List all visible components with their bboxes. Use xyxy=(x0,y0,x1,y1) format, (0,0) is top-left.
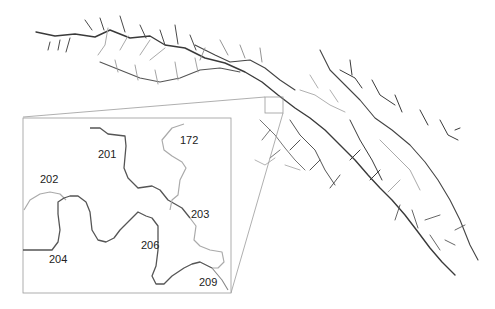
river-network-map xyxy=(0,0,495,309)
reach-label-203: 203 xyxy=(191,209,209,220)
reach-label-209: 209 xyxy=(199,277,217,288)
reach-label-204: 204 xyxy=(49,254,67,265)
inset-connector-bottom xyxy=(231,113,283,293)
inset-frame xyxy=(23,118,231,293)
reach-label-202: 202 xyxy=(40,174,58,185)
zoom-region-box xyxy=(265,97,283,113)
reach-label-201: 201 xyxy=(98,149,116,160)
reach-label-206: 206 xyxy=(141,240,159,251)
inset-connector-top xyxy=(23,97,265,117)
reach-label-172: 172 xyxy=(180,135,198,146)
